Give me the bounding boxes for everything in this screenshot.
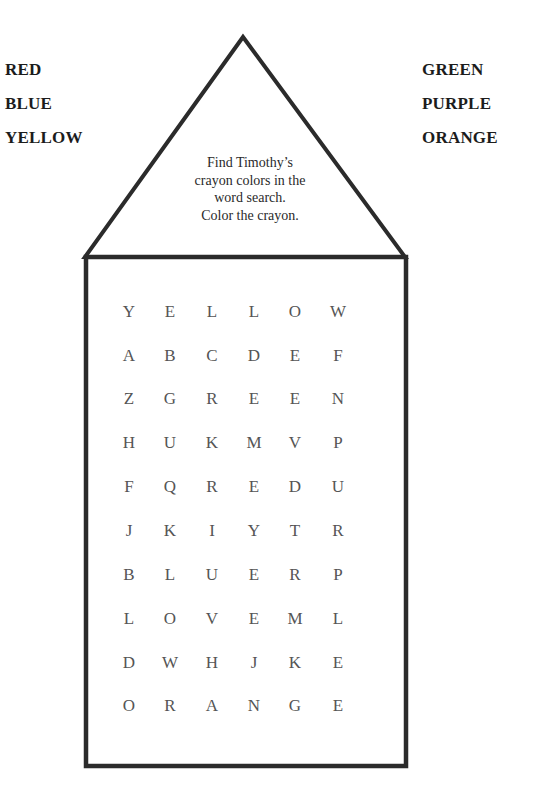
- grid-cell[interactable]: U: [155, 432, 185, 454]
- grid-cell[interactable]: U: [323, 476, 353, 498]
- grid-cell[interactable]: A: [197, 695, 227, 717]
- grid-cell[interactable]: O: [280, 301, 310, 323]
- grid-cell[interactable]: R: [323, 520, 353, 542]
- grid-cell[interactable]: L: [114, 608, 144, 630]
- grid-cell[interactable]: Y: [239, 520, 269, 542]
- grid-cell[interactable]: E: [239, 476, 269, 498]
- grid-cell[interactable]: R: [155, 695, 185, 717]
- grid-cell[interactable]: J: [114, 520, 144, 542]
- grid-cell[interactable]: V: [280, 432, 310, 454]
- grid-cell[interactable]: E: [239, 608, 269, 630]
- grid-cell[interactable]: F: [323, 345, 353, 367]
- grid-cell[interactable]: I: [197, 520, 227, 542]
- grid-cell[interactable]: F: [114, 476, 144, 498]
- grid-cell[interactable]: N: [239, 695, 269, 717]
- grid-cell[interactable]: A: [114, 345, 144, 367]
- grid-cell[interactable]: M: [280, 608, 310, 630]
- grid-cell[interactable]: L: [155, 564, 185, 586]
- grid-cell[interactable]: H: [114, 432, 144, 454]
- grid-cell[interactable]: Y: [114, 301, 144, 323]
- grid-cell[interactable]: Q: [155, 476, 185, 498]
- instruction-line: Color the crayon.: [170, 207, 330, 225]
- grid-cell[interactable]: R: [197, 388, 227, 410]
- grid-cell[interactable]: D: [280, 476, 310, 498]
- grid-cell[interactable]: K: [280, 652, 310, 674]
- grid-cell[interactable]: W: [323, 301, 353, 323]
- grid-cell[interactable]: P: [323, 564, 353, 586]
- grid-cell[interactable]: M: [239, 432, 269, 454]
- grid-cell[interactable]: L: [239, 301, 269, 323]
- grid-cell[interactable]: K: [155, 520, 185, 542]
- grid-cell[interactable]: R: [197, 476, 227, 498]
- grid-cell[interactable]: E: [280, 345, 310, 367]
- grid-cell[interactable]: O: [155, 608, 185, 630]
- grid-cell[interactable]: Z: [114, 388, 144, 410]
- grid-cell[interactable]: J: [239, 652, 269, 674]
- grid-cell[interactable]: E: [323, 695, 353, 717]
- grid-cell[interactable]: D: [114, 652, 144, 674]
- grid-cell[interactable]: B: [114, 564, 144, 586]
- grid-cell[interactable]: E: [239, 564, 269, 586]
- grid-cell[interactable]: R: [280, 564, 310, 586]
- grid-cell[interactable]: K: [197, 432, 227, 454]
- grid-cell[interactable]: G: [280, 695, 310, 717]
- grid-cell[interactable]: E: [155, 301, 185, 323]
- grid-cell[interactable]: D: [239, 345, 269, 367]
- grid-cell[interactable]: N: [323, 388, 353, 410]
- grid-cell[interactable]: G: [155, 388, 185, 410]
- instruction-line: crayon colors in the: [170, 172, 330, 190]
- grid-cell[interactable]: E: [280, 388, 310, 410]
- instruction-line: word search.: [170, 189, 330, 207]
- grid-cell[interactable]: O: [114, 695, 144, 717]
- grid-cell[interactable]: E: [239, 388, 269, 410]
- grid-cell[interactable]: P: [323, 432, 353, 454]
- grid-cell[interactable]: L: [197, 301, 227, 323]
- crayon-body[interactable]: [86, 257, 406, 766]
- grid-cell[interactable]: H: [197, 652, 227, 674]
- grid-cell[interactable]: V: [197, 608, 227, 630]
- instruction-line: Find Timothy’s: [170, 154, 330, 172]
- grid-cell[interactable]: C: [197, 345, 227, 367]
- grid-cell[interactable]: E: [323, 652, 353, 674]
- grid-cell[interactable]: L: [323, 608, 353, 630]
- grid-cell[interactable]: T: [280, 520, 310, 542]
- grid-cell[interactable]: W: [155, 652, 185, 674]
- grid-cell[interactable]: U: [197, 564, 227, 586]
- grid-cell[interactable]: B: [155, 345, 185, 367]
- instructions-text: Find Timothy’s crayon colors in the word…: [170, 154, 330, 224]
